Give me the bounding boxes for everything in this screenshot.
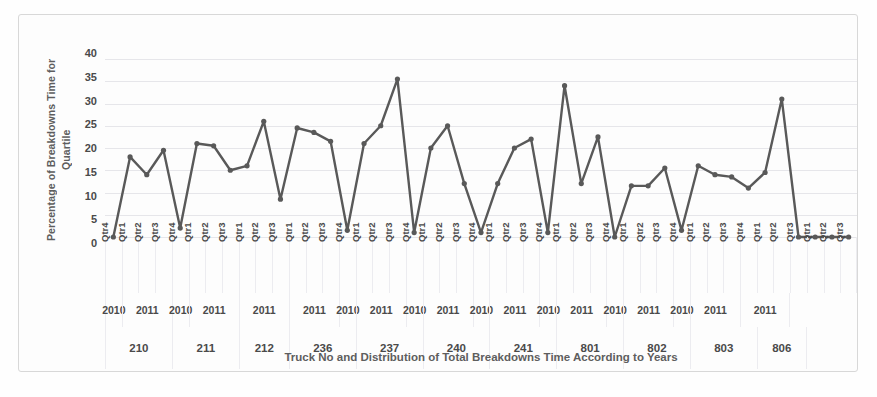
data-point — [194, 141, 199, 146]
data-point — [244, 163, 249, 168]
quarter-label: Qtr4 — [333, 222, 344, 242]
quarter-label: Qtr4 — [166, 222, 177, 242]
year-label-cell: 2011 — [189, 293, 239, 327]
data-point — [729, 174, 734, 179]
data-point — [395, 76, 400, 81]
quarter-label-cell: Qtr2 — [640, 237, 657, 293]
quarter-label-cell: Qtr2 — [255, 237, 272, 293]
quarter-label-cell: Qtr4 — [740, 237, 757, 293]
y-tick-label: 40 — [85, 48, 97, 59]
quarter-label: Qtr2 — [567, 222, 578, 242]
quarter-label: Qtr3 — [584, 222, 595, 242]
data-point — [328, 139, 333, 144]
quarter-label: Qtr3 — [717, 222, 728, 242]
quarter-label-cell: Qtr1 — [690, 237, 707, 293]
quarter-label: Qtr2 — [366, 222, 377, 242]
quarter-label-cell: Qtr3 — [656, 237, 673, 293]
quarter-label: Qtr3 — [266, 222, 277, 242]
quarter-label-cell: Qtr2 — [824, 237, 841, 293]
year-label: 2011 — [253, 304, 276, 316]
data-point — [529, 137, 534, 142]
quarter-label-cell: Qtr2 — [372, 237, 389, 293]
data-point — [127, 154, 132, 159]
quarter-label-cell: Qtr2 — [439, 237, 456, 293]
quarter-label-cell: Qtr1 — [239, 237, 256, 293]
quarter-label: Qtr4 — [734, 222, 745, 242]
year-label: 2011 — [303, 304, 326, 316]
quarter-label: Qtr3 — [149, 222, 160, 242]
quarter-label: Qtr2 — [433, 222, 444, 242]
y-tick-label: 20 — [85, 143, 97, 154]
data-point — [428, 145, 433, 150]
data-point — [512, 145, 517, 150]
quarter-label-cell: Qtr3 — [155, 237, 172, 293]
quarter-label: Qtr1 — [801, 222, 812, 242]
data-point — [696, 163, 701, 168]
quarter-label-cell: Qtr3 — [222, 237, 239, 293]
quarter-label: Qtr2 — [249, 222, 260, 242]
year-label-cell: 2010 — [172, 293, 189, 327]
quarter-label: Qtr3 — [651, 222, 662, 242]
data-point — [311, 130, 316, 135]
quarter-label: Qtr1 — [550, 222, 561, 242]
quarter-label-cell: Qtr4 — [105, 237, 122, 293]
data-point — [495, 181, 500, 186]
year-label: 2011 — [136, 304, 159, 316]
quarter-label-cell: Qtr1 — [623, 237, 640, 293]
quarter-label-cell: Qtr2 — [306, 237, 323, 293]
year-label-cell: 2010 — [105, 293, 122, 327]
quarter-label-cell: Qtr1 — [556, 237, 573, 293]
data-point — [595, 134, 600, 139]
year-label-cell: 2011 — [489, 293, 539, 327]
breakdown-percentage-line-series — [105, 59, 857, 237]
data-point — [746, 185, 751, 190]
quarter-label-cell: Qtr4 — [606, 237, 623, 293]
y-tick-label: 5 — [91, 214, 97, 225]
quarter-label: Qtr3 — [450, 222, 461, 242]
data-point — [629, 183, 634, 188]
quarter-label-cell: Qtr2 — [138, 237, 155, 293]
year-label: 2011 — [754, 304, 777, 316]
quarter-label-cell: Qtr1 — [356, 237, 373, 293]
quarter-label-cell: Qtr2 — [506, 237, 523, 293]
year-label: 2011 — [370, 304, 393, 316]
series-layer — [105, 59, 857, 237]
quarter-label: Qtr1 — [283, 222, 294, 242]
data-point — [278, 197, 283, 202]
x-axis-title: Truck No and Distribution of Total Break… — [105, 351, 857, 363]
quarter-label-cell: Qtr3 — [389, 237, 406, 293]
quarter-label-cell: Qtr1 — [122, 237, 139, 293]
year-label-cell: 2011 — [556, 293, 606, 327]
quarter-label: Qtr1 — [483, 222, 494, 242]
year-label-cell: 2010 — [539, 293, 556, 327]
quarter-label-cell: Qtr4 — [473, 237, 490, 293]
data-point — [144, 172, 149, 177]
year-label-cell: 2010 — [339, 293, 356, 327]
data-point — [779, 96, 784, 101]
year-label-cell: 2010 — [406, 293, 423, 327]
data-point — [345, 228, 350, 233]
quarter-label-cell: Qtr3 — [590, 237, 607, 293]
y-tick-label: 25 — [85, 119, 97, 130]
y-tick-label: 10 — [85, 190, 97, 201]
quarter-label-cell: Qtr3 — [272, 237, 289, 293]
quarter-label: Qtr1 — [183, 222, 194, 242]
year-label: 2011 — [704, 304, 727, 316]
data-point — [211, 143, 216, 148]
y-tick-label: 35 — [85, 71, 97, 82]
quarter-label-cell: Qtr2 — [707, 237, 724, 293]
data-point — [712, 172, 717, 177]
quarter-label: Qtr4 — [600, 222, 611, 242]
data-point — [762, 170, 767, 175]
quarter-label-cell: Qtr3 — [790, 237, 807, 293]
quarter-label: Qtr3 — [383, 222, 394, 242]
quarter-label: Qtr1 — [751, 222, 762, 242]
year-label-cell: 2011 — [356, 293, 406, 327]
y-axis-title-line-1: Percentage of Breakdowns Time for — [45, 45, 57, 255]
quarter-label: Qtr1 — [617, 222, 628, 242]
year-label-cell: 2011 — [623, 293, 673, 327]
year-label: 2011 — [203, 304, 226, 316]
quarter-label-cell: Qtr3 — [723, 237, 740, 293]
quarter-label-cell: Qtr4 — [406, 237, 423, 293]
quarter-label-cell: Qtr4 — [539, 237, 556, 293]
